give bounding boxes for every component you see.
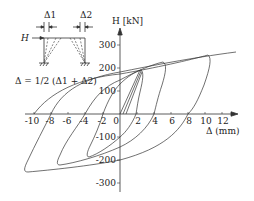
svg-text:-6: -6 xyxy=(63,116,72,126)
svg-text:0: 0 xyxy=(113,116,119,126)
y-axis-label: H [kN] xyxy=(112,16,143,26)
support-right xyxy=(80,63,90,66)
hysteresis-loops xyxy=(25,52,236,172)
x-axis-label: Δ (mm) xyxy=(206,126,239,136)
x-tick-labels: -10 -8 -6 -4 -2 0 2 4 6 8 10 12 xyxy=(25,116,229,126)
svg-text:300: 300 xyxy=(99,40,116,50)
support-left xyxy=(39,63,49,66)
svg-text:-100: -100 xyxy=(96,132,116,142)
svg-text:2: 2 xyxy=(135,116,141,126)
svg-text:10: 10 xyxy=(200,116,212,126)
y-axis-arrow-icon xyxy=(118,28,122,35)
svg-text:100: 100 xyxy=(99,86,116,96)
delta2-label: Δ2 xyxy=(80,10,92,20)
svg-text:-10: -10 xyxy=(25,116,40,126)
svg-text:-8: -8 xyxy=(46,116,55,126)
axes xyxy=(25,28,238,192)
x-axis-arrow-icon xyxy=(231,112,238,116)
svg-text:8: 8 xyxy=(186,116,192,126)
hysteresis-figure: Δ1 Δ2 H Δ = 1/2 (Δ1 + Δ2) -10 -8 -6 -4 -… xyxy=(0,0,254,201)
svg-text:-300: -300 xyxy=(96,178,116,188)
frame-diagram xyxy=(32,22,93,66)
svg-text:6: 6 xyxy=(169,116,175,126)
svg-text:4: 4 xyxy=(152,116,158,126)
delta1-label: Δ1 xyxy=(44,10,56,20)
load-label: H xyxy=(20,33,29,43)
elastic-line-2 xyxy=(123,71,141,114)
svg-text:12: 12 xyxy=(217,116,228,126)
svg-text:200: 200 xyxy=(99,63,116,73)
